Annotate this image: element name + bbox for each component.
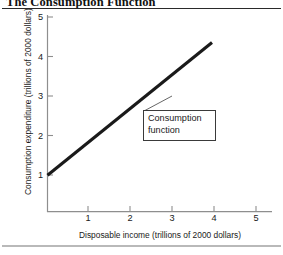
callout-leader-line [144,96,172,111]
x-axis-ticks [88,206,256,212]
callout-line-1: Consumption [148,113,215,125]
consumption-function-line [48,43,213,176]
x-tick-label-1: 1 [81,213,95,223]
x-tick-label-4: 4 [207,213,221,223]
consumption-function-callout: Consumption function [143,110,216,141]
figure-the-consumption-function: The Consumption Function 5 [0,0,283,255]
x-tick-label-5: 5 [249,213,263,223]
callout-line-2: function [148,125,215,137]
y-axis-ticks [48,17,54,175]
x-tick-label-2: 2 [123,213,137,223]
y-axis-title: Consumption expenditure (trillions of 20… [23,25,33,195]
x-tick-label-3: 3 [165,213,179,223]
x-axis-title: Disposable income (trillions of 2000 dol… [47,230,273,240]
chart-plot-area [0,0,283,255]
